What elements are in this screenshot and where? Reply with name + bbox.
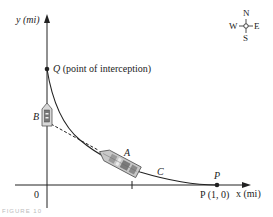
point-q-letter: Q	[53, 63, 60, 74]
point-q-label: Q (point of interception)	[53, 64, 151, 74]
point-p-marker	[215, 183, 220, 188]
compass-south: S	[243, 34, 248, 43]
figure-caption: FIGURE 10	[2, 208, 42, 214]
ship-a-label: A	[124, 148, 130, 158]
line-of-sight-dashed	[51, 124, 98, 150]
boat-b-icon	[42, 103, 52, 126]
y-axis-label: y (mi)	[16, 15, 40, 25]
point-q-marker	[45, 67, 50, 72]
ship-b-label: B	[33, 112, 39, 122]
origin-label: 0	[34, 190, 39, 200]
pursuit-diagram	[0, 0, 273, 217]
y-axis-label-text: y (mi)	[16, 14, 40, 25]
x-axis-label: x (mi)	[236, 189, 261, 199]
compass-east: E	[254, 22, 260, 31]
point-p-coords-label: P (1, 0)	[200, 190, 229, 200]
point-p-letter-above: P	[214, 171, 220, 181]
ship-a-icon	[97, 146, 141, 177]
compass-north: N	[243, 9, 250, 18]
compass-west: W	[229, 22, 238, 31]
point-q-description: (point of interception)	[63, 63, 151, 74]
compass-rose-icon	[239, 19, 253, 33]
x-axis-label-text: x (mi)	[236, 188, 261, 199]
curve-c-label: C	[157, 167, 164, 177]
y-axis-arrow-icon	[44, 14, 50, 23]
